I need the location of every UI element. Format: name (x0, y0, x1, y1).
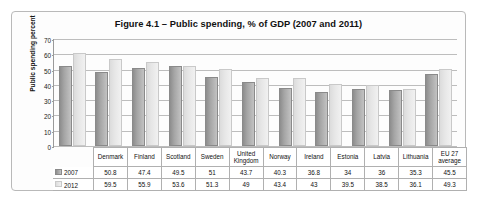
bar-2012 (73, 53, 86, 146)
bar-group (237, 39, 274, 146)
table-value-cell: 43.4 (263, 179, 297, 191)
table-value-cell: 39.5 (331, 179, 365, 191)
y-axis-title: Public spending percent (29, 0, 36, 109)
table-header-row: DenmarkFinlandScotlandSwedenUnited Kingd… (53, 148, 467, 167)
bar-group (91, 39, 128, 146)
bar-group (347, 39, 384, 146)
bar-2012 (403, 89, 416, 146)
bar-2007 (389, 90, 402, 146)
bar-group (274, 39, 311, 146)
legend-swatch-icon (55, 169, 62, 175)
table-value-cell: 51.3 (195, 179, 229, 191)
category-header-cell: Estonia (331, 148, 365, 167)
table-row: 200750.847.449.55143.740.336.8343635.345… (53, 167, 467, 179)
figure-frame: Figure 4.1 – Public spending, % of GDP (… (11, 11, 466, 191)
legend-label: 2012 (64, 181, 78, 188)
bar-2012 (146, 62, 159, 146)
table-corner-cell (53, 148, 94, 167)
y-tick-label: 30 (44, 98, 51, 105)
table-row: 201259.555.953.651.34943.44339.538.536.1… (53, 179, 467, 191)
bar-2012 (256, 78, 269, 146)
table-value-cell: 35.3 (399, 167, 433, 179)
y-tick-label: 40 (44, 82, 51, 89)
category-header-cell: Latvia (365, 148, 399, 167)
bar-group (127, 39, 164, 146)
bar-2007 (279, 88, 292, 146)
bar-2007 (169, 66, 182, 146)
category-header-cell: Sweden (195, 148, 229, 167)
category-header-cell: Norway (263, 148, 297, 167)
legend-swatch-icon (55, 181, 62, 187)
bar-group (54, 39, 91, 146)
legend-item-2012: 2012 (53, 179, 94, 191)
chart-title: Figure 4.1 – Public spending, % of GDP (… (12, 19, 465, 29)
bar-2007 (425, 74, 438, 146)
table-value-cell: 49.3 (433, 179, 467, 191)
bar-2012 (183, 66, 196, 146)
y-tick-label: 0 (47, 144, 51, 151)
y-tick-label: 60 (44, 52, 51, 59)
bar-2007 (132, 68, 145, 146)
bar-2012 (109, 59, 122, 146)
table-value-cell: 34 (331, 167, 365, 179)
table-value-cell: 40.3 (263, 167, 297, 179)
bars-layer (54, 39, 457, 146)
category-header-cell: Ireland (297, 148, 331, 167)
bar-group (310, 39, 347, 146)
table-value-cell: 43.7 (229, 167, 263, 179)
bar-2012 (439, 69, 452, 146)
table-value-cell: 36 (365, 167, 399, 179)
bar-2007 (95, 72, 108, 146)
category-header-cell: EU 27 average (433, 148, 467, 167)
table-value-cell: 47.4 (127, 167, 161, 179)
legend-item-2007: 2007 (53, 167, 94, 179)
table-value-cell: 49 (229, 179, 263, 191)
table-value-cell: 51 (195, 167, 229, 179)
bar-2007 (315, 92, 328, 146)
bar-group (164, 39, 201, 146)
table-value-cell: 49.5 (161, 167, 195, 179)
table-value-cell: 36.1 (399, 179, 433, 191)
bar-2007 (205, 77, 218, 146)
y-tick-label: 50 (44, 67, 51, 74)
table-value-cell: 59.5 (94, 179, 128, 191)
bar-group (201, 39, 238, 146)
table-value-cell: 53.6 (161, 179, 195, 191)
table-value-cell: 38.5 (365, 179, 399, 191)
bar-2012 (329, 84, 342, 146)
category-header-cell: United Kingdom (229, 148, 263, 167)
plot-area: 706050403020100 (53, 39, 457, 147)
bar-2012 (366, 85, 379, 146)
y-tick-label: 20 (44, 113, 51, 120)
table-value-cell: 55.9 (127, 179, 161, 191)
table-value-cell: 45.5 (433, 167, 467, 179)
bar-2007 (59, 66, 72, 146)
bar-group (384, 39, 421, 146)
bar-2012 (219, 69, 232, 146)
data-table: DenmarkFinlandScotlandSwedenUnited Kingd… (53, 147, 467, 191)
category-header-cell: Denmark (94, 148, 128, 167)
bar-2012 (293, 78, 306, 146)
y-tick-label: 10 (44, 128, 51, 135)
category-header-cell: Scotland (161, 148, 195, 167)
table-value-cell: 50.8 (94, 167, 128, 179)
bar-group (420, 39, 457, 146)
table-value-cell: 36.8 (297, 167, 331, 179)
y-tick-label: 70 (44, 37, 51, 44)
legend-label: 2007 (64, 169, 78, 176)
bar-2007 (242, 82, 255, 146)
category-header-cell: Lithuania (399, 148, 433, 167)
category-header-cell: Finland (127, 148, 161, 167)
bar-2007 (352, 89, 365, 146)
table-value-cell: 43 (297, 179, 331, 191)
